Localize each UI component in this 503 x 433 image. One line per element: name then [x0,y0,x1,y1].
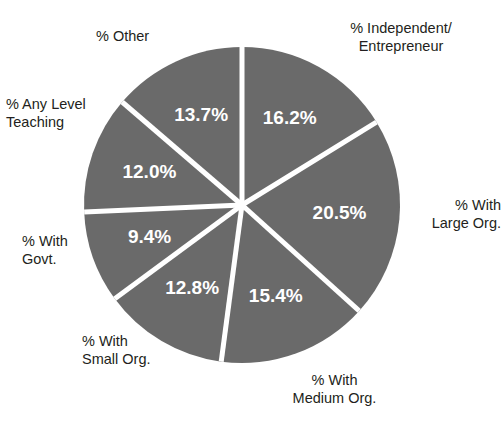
pie-value-label-small-org: 12.8% [165,277,219,298]
pie-value-label-other: 13.7% [174,104,228,125]
callout-label-small-org: % With Small Org. [82,333,202,368]
pie-value-label-medium-org: 15.4% [249,285,303,306]
callout-label-any-level-teaching: % Any Level Teaching [6,96,116,131]
pie-value-label-govt: 9.4% [128,226,171,247]
pie-value-label-any-level-teaching: 12.0% [122,161,176,182]
callout-label-other: % Other [96,28,226,46]
pie-value-label-independent: 16.2% [263,107,317,128]
callout-label-large-org: % With Large Org. [416,197,501,232]
callout-label-govt: % With Govt. [22,233,122,268]
pie-chart-figure: 16.2%20.5%15.4%12.8%9.4%12.0%13.7% % Ind… [0,0,503,433]
pie-value-label-large-org: 20.5% [313,202,367,223]
callout-label-medium-org: % With Medium Org. [262,372,407,407]
callout-label-independent: % Independent/ Entrepreneur [316,20,486,55]
